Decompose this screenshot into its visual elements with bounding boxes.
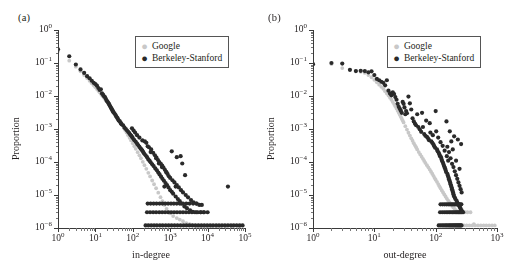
x-tick-minor bbox=[225, 228, 226, 231]
x-tick-major bbox=[313, 228, 314, 232]
y-tick-minor bbox=[56, 136, 59, 137]
y-tick-minor bbox=[56, 175, 59, 176]
y-tick-minor bbox=[56, 65, 59, 66]
y-tick-minor bbox=[311, 134, 314, 135]
y-tick-minor bbox=[311, 131, 314, 132]
x-tick-minor bbox=[76, 228, 77, 231]
y-tick-label: 10−5 bbox=[35, 190, 52, 200]
legend-label-berkeley-stanford: Berkeley-Stanford bbox=[404, 52, 474, 64]
x-tick-major bbox=[58, 228, 59, 232]
x-tick-minor bbox=[69, 228, 70, 231]
y-tick-minor bbox=[311, 73, 314, 74]
x-tick-major bbox=[208, 228, 209, 232]
x-tick-minor bbox=[159, 228, 160, 231]
x-tick-minor bbox=[411, 228, 412, 231]
y-tick-minor bbox=[56, 68, 59, 69]
y-tick-minor bbox=[56, 32, 59, 33]
y-tick-minor bbox=[311, 80, 314, 81]
x-tick-minor bbox=[107, 228, 108, 231]
y-tick-minor bbox=[311, 119, 314, 120]
y-tick-minor bbox=[311, 32, 314, 33]
y-tick-minor bbox=[56, 164, 59, 165]
x-tick-minor bbox=[433, 228, 434, 231]
y-tick-minor bbox=[56, 98, 59, 99]
x-tick-minor bbox=[81, 228, 82, 231]
y-tick-minor bbox=[311, 70, 314, 71]
panel-label-b: (b) bbox=[268, 12, 281, 23]
legend-item-berkeley-stanford: ● Berkeley-Stanford bbox=[392, 52, 474, 64]
y-tick-minor bbox=[311, 98, 314, 99]
y-tick-label: 10−6 bbox=[290, 223, 307, 233]
legend-a: ● Google ● Berkeley-Stanford bbox=[135, 36, 229, 68]
y-tick-minor bbox=[56, 202, 59, 203]
x-tick-label: 100 bbox=[307, 234, 320, 244]
y-tick-minor bbox=[311, 99, 314, 100]
x-tick-minor bbox=[164, 228, 165, 231]
y-tick-minor bbox=[311, 185, 314, 186]
y-tick-minor bbox=[56, 198, 59, 199]
y-tick-minor bbox=[311, 146, 314, 147]
x-tick-minor bbox=[84, 228, 85, 231]
x-tick-label: 102 bbox=[126, 234, 139, 244]
x-tick-minor bbox=[181, 228, 182, 231]
y-tick-minor bbox=[311, 152, 314, 153]
x-tick-minor bbox=[465, 228, 466, 231]
y-tick-minor bbox=[311, 132, 314, 133]
x-axis-spine bbox=[313, 228, 497, 229]
x-tick-minor bbox=[417, 228, 418, 231]
y-tick-minor bbox=[56, 200, 59, 201]
y-tick-minor bbox=[311, 53, 314, 54]
y-tick-label: 100 bbox=[294, 25, 307, 35]
x-tick-minor bbox=[234, 228, 235, 231]
x-tick-minor bbox=[219, 228, 220, 231]
y-tick-minor bbox=[56, 35, 59, 36]
y-tick-label: 100 bbox=[39, 25, 52, 35]
y-tick-label: 10−1 bbox=[290, 58, 307, 68]
y-tick-minor bbox=[311, 179, 314, 180]
x-tick-minor bbox=[90, 228, 91, 231]
y-tick-minor bbox=[311, 205, 314, 206]
y-tick-label: 10−2 bbox=[35, 91, 52, 101]
y-tick-minor bbox=[311, 43, 314, 44]
x-tick-minor bbox=[404, 228, 405, 231]
x-tick-label: 103 bbox=[164, 234, 177, 244]
y-tick-minor bbox=[311, 35, 314, 36]
y-tick-minor bbox=[311, 218, 314, 219]
y-tick-minor bbox=[311, 106, 314, 107]
x-tick-minor bbox=[202, 228, 203, 231]
y-tick-minor bbox=[56, 218, 59, 219]
legend-b: ● Google ● Berkeley-Stanford bbox=[387, 36, 481, 68]
y-tick-minor bbox=[311, 169, 314, 170]
x-tick-minor bbox=[365, 228, 366, 231]
x-tick-minor bbox=[454, 228, 455, 231]
y-tick-minor bbox=[56, 142, 59, 143]
y-tick-minor bbox=[56, 99, 59, 100]
y-tick-minor bbox=[56, 43, 59, 44]
y-tick-minor bbox=[311, 165, 314, 166]
y-tick-label: 10−5 bbox=[290, 190, 307, 200]
y-tick-minor bbox=[56, 86, 59, 87]
y-tick-label: 10−6 bbox=[35, 223, 52, 233]
x-tick-minor bbox=[167, 228, 168, 231]
x-tick-minor bbox=[487, 228, 488, 231]
y-tick-minor bbox=[311, 208, 314, 209]
x-tick-minor bbox=[350, 228, 351, 231]
legend-label-berkeley-stanford: Berkeley-Stanford bbox=[152, 52, 222, 64]
y-tick-minor bbox=[56, 119, 59, 120]
y-tick-minor bbox=[311, 66, 314, 67]
y-tick-minor bbox=[311, 47, 314, 48]
legend-marker-berkeley-stanford-icon: ● bbox=[392, 53, 401, 64]
legend-item-berkeley-stanford: ● Berkeley-Stanford bbox=[140, 52, 222, 64]
x-tick-minor bbox=[118, 228, 119, 231]
x-tick-minor bbox=[129, 228, 130, 231]
x-tick-minor bbox=[193, 228, 194, 231]
x-tick-minor bbox=[199, 228, 200, 231]
x-tick-minor bbox=[162, 228, 163, 231]
x-tick-minor bbox=[237, 228, 238, 231]
y-axis-title-b: Proportion bbox=[265, 117, 276, 160]
legend-marker-google-icon: ● bbox=[140, 41, 149, 52]
x-tick-major bbox=[436, 228, 437, 232]
y-tick-minor bbox=[311, 164, 314, 165]
x-tick-minor bbox=[331, 228, 332, 231]
legend-item-google: ● Google bbox=[140, 40, 222, 52]
